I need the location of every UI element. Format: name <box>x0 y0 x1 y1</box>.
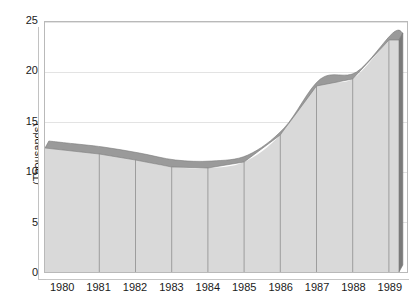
x-tick-label: 1988 <box>335 281 371 301</box>
x-tick-label: 1983 <box>153 281 189 301</box>
y-axis-tick-labels: 0510152025 <box>12 0 38 307</box>
area-fill <box>45 37 399 272</box>
x-tick-label: 1982 <box>117 281 153 301</box>
x-tick-label: 1984 <box>190 281 226 301</box>
x-tick-label: 1989 <box>372 281 408 301</box>
area-series <box>45 22 407 272</box>
y-tick-label: 5 <box>12 217 38 228</box>
area-chart: (Thousands) 0510152025 19801981198219831… <box>0 0 419 307</box>
x-tick-label: 1980 <box>44 281 80 301</box>
x-tick-label: 1986 <box>262 281 298 301</box>
y-tick-label: 0 <box>12 267 38 278</box>
x-axis-tick-labels: 1980198119821983198419851986198719881989 <box>44 281 408 301</box>
area-side-face <box>399 33 403 272</box>
y-tick-label: 15 <box>12 116 38 127</box>
x-tick-label: 1985 <box>226 281 262 301</box>
x-tick-label: 1981 <box>80 281 116 301</box>
x-tick-label: 1987 <box>299 281 335 301</box>
plot-area <box>44 21 408 273</box>
y-tick-label: 20 <box>12 65 38 76</box>
y-tick-label: 25 <box>12 15 38 26</box>
y-tick-label: 10 <box>12 166 38 177</box>
axis-depth-floor <box>38 272 409 280</box>
